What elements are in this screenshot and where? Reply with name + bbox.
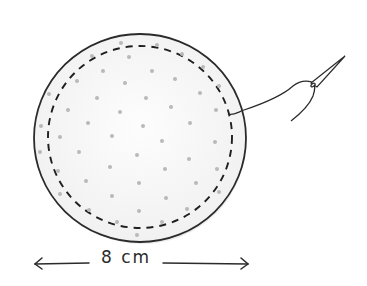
dimension-label: 8 cm [96, 247, 156, 267]
fabric-circle-illustration [0, 0, 367, 286]
needle-icon [310, 56, 345, 88]
